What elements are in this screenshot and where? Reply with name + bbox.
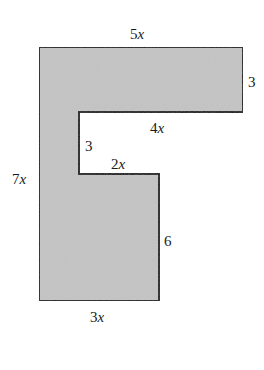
label-right-bottom-6: 6 (164, 233, 172, 249)
label-top-5x: 5x (130, 26, 145, 42)
label-right-top-3: 3 (248, 74, 256, 90)
shaded-f-region (39, 47, 243, 301)
label-inner-left-3: 3 (85, 138, 93, 154)
f-shape-diagram: 5x 3 4x 3 2x 7x 6 3x (0, 0, 264, 370)
label-inner-top-4x: 4x (150, 120, 165, 136)
label-inner-step-2x: 2x (111, 156, 126, 172)
label-left-7x: 7x (12, 171, 27, 187)
label-bottom-3x: 3x (90, 309, 105, 325)
